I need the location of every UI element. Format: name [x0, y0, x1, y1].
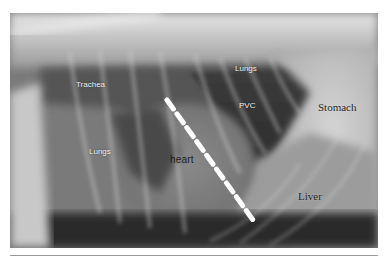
xray-image: Trachea Lungs PVC Stomach Lungs heart Li…: [10, 13, 378, 248]
label-lungs-lower: Lungs: [89, 147, 111, 156]
label-trachea: Trachea: [76, 80, 105, 89]
label-lungs-upper: Lungs: [235, 64, 257, 73]
label-liver: Liver: [298, 190, 322, 202]
label-pvc: PVC: [239, 101, 255, 110]
label-stomach: Stomach: [318, 101, 357, 113]
measurement-line: [10, 13, 378, 248]
label-heart: heart: [170, 154, 194, 165]
divider: [10, 255, 378, 256]
